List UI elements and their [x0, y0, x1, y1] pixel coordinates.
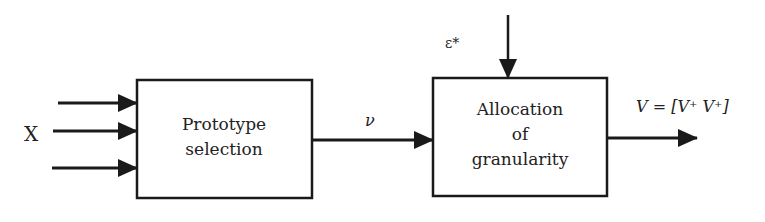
allocation-block-line-2: of: [512, 124, 530, 144]
allocation-block-line-3: granularity: [472, 149, 569, 169]
output-label: V = [V⁺ V⁺]: [636, 97, 729, 116]
prototype-block-line-2: selection: [185, 139, 262, 159]
block-diagram: X Prototype selection ν ε* Allocation of…: [0, 0, 765, 222]
control-label: ε*: [445, 35, 459, 51]
intermediate-label: ν: [365, 111, 375, 130]
allocation-block-line-1: Allocation: [476, 99, 564, 119]
input-label: X: [24, 122, 39, 146]
prototype-block-line-1: Prototype: [182, 114, 266, 134]
